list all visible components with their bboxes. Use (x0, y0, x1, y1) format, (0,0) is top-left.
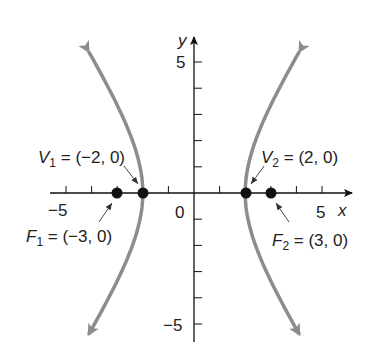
hyperbola-chart: y x −5 0 5 5 −5 V1 = (−2, 0) V2 = (2, 0)… (0, 0, 365, 361)
y-tick-label-5: 5 (176, 53, 185, 72)
x-axis-label: x (337, 201, 347, 220)
v1-pointer (124, 166, 138, 184)
f2-label: F2 = (3, 0) (272, 231, 348, 253)
f2-pointer (276, 203, 289, 222)
y-tick-label-neg5: −5 (163, 316, 182, 335)
x-tick-label-neg5: −5 (48, 201, 67, 220)
vertex-v1-point (138, 188, 149, 199)
origin-label: 0 (175, 203, 184, 222)
f1-pointer (99, 203, 112, 222)
x-tick-label-5: 5 (316, 203, 325, 222)
f1-label: F1 = (−3, 0) (26, 227, 112, 249)
focus-f1-point (112, 188, 123, 199)
vertex-v2-point (241, 188, 252, 199)
v2-pointer (251, 166, 264, 184)
focus-f2-point (266, 188, 277, 199)
v2-label: V2 = (2, 0) (261, 148, 338, 170)
v1-label: V1 = (−2, 0) (38, 148, 125, 170)
y-axis-label: y (177, 31, 188, 50)
